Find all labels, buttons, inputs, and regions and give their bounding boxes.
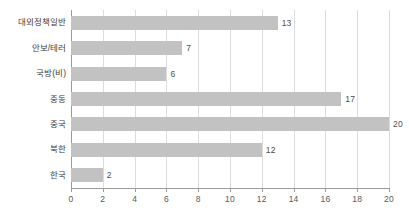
x-tick-mark-12: [262, 188, 263, 192]
gridline-x-20: [389, 10, 390, 188]
category-label: 북한: [0, 145, 66, 154]
bar: [71, 92, 341, 106]
x-axis-end-cap: [389, 188, 390, 192]
bar-value-label: 13: [282, 18, 292, 28]
x-tick-label-12: 12: [248, 194, 276, 204]
x-tick-label-4: 4: [121, 194, 149, 204]
bar: [71, 41, 182, 55]
x-tick-label-14: 14: [280, 194, 308, 204]
x-tick-label-0: 0: [57, 194, 85, 204]
bar-row: 17: [71, 92, 389, 106]
x-tick-mark-0: [71, 188, 72, 192]
bar-value-label: 7: [186, 43, 191, 53]
bar-value-label: 2: [107, 170, 112, 180]
bar-value-label: 12: [266, 145, 276, 155]
bar-value-label: 17: [345, 94, 355, 104]
x-tick-mark-4: [135, 188, 136, 192]
y-axis-category-labels: 대외정책일반안보/테러국방(비)중동중국북한한국: [0, 10, 66, 188]
bar: [71, 117, 389, 131]
x-tick-mark-2: [103, 188, 104, 192]
category-label: 한국: [0, 171, 66, 180]
x-tick-label-10: 10: [216, 194, 244, 204]
bar: [71, 16, 278, 30]
x-tick-label-8: 8: [184, 194, 212, 204]
bar-row: 6: [71, 67, 389, 81]
x-tick-mark-8: [198, 188, 199, 192]
category-label: 안보/테러: [0, 44, 66, 53]
bar-row: 7: [71, 41, 389, 55]
x-tick-label-20: 20: [375, 194, 403, 204]
x-tick-mark-6: [166, 188, 167, 192]
bar-value-label: 6: [170, 69, 175, 79]
x-tick-mark-10: [230, 188, 231, 192]
horizontal-bar-chart: 대외정책일반안보/테러국방(비)중동중국북한한국 13761720122 024…: [0, 0, 409, 218]
x-tick-label-2: 2: [89, 194, 117, 204]
plot-area: 13761720122: [71, 10, 389, 188]
category-label: 대외정책일반: [0, 18, 66, 27]
bar: [71, 67, 166, 81]
category-label: 중동: [0, 95, 66, 104]
bar: [71, 168, 103, 182]
bar-row: 13: [71, 16, 389, 30]
bar-row: 20: [71, 117, 389, 131]
x-tick-mark-16: [325, 188, 326, 192]
x-tick-mark-18: [357, 188, 358, 192]
x-tick-mark-14: [294, 188, 295, 192]
x-tick-label-6: 6: [152, 194, 180, 204]
category-label: 중국: [0, 120, 66, 129]
category-label: 국방(비): [0, 69, 66, 78]
bar-value-label: 20: [393, 119, 403, 129]
bar: [71, 143, 262, 157]
bar-row: 2: [71, 168, 389, 182]
bar-row: 12: [71, 143, 389, 157]
x-tick-label-16: 16: [311, 194, 339, 204]
x-tick-label-18: 18: [343, 194, 371, 204]
